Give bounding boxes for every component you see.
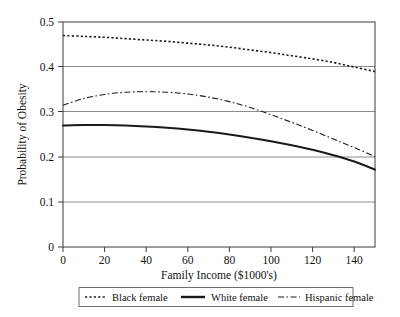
xtick-label-120: 120 [304,254,322,266]
obesity-probability-line-chart: 0 0.1 0.2 0.3 0.4 0.5 0 20 40 60 80 100 [0,0,400,317]
xtick-label-40: 40 [140,254,152,266]
legend: Black female White female Hispanic femal… [79,288,374,307]
legend-label-hispanic-female: Hispanic female [305,292,374,303]
legend-label-black-female: Black female [112,292,168,303]
ytick-label-0.5: 0.5 [40,16,55,28]
chart-figure: 0 0.1 0.2 0.3 0.4 0.5 0 20 40 60 80 100 [0,0,400,317]
legend-label-white-female: White female [211,292,268,303]
xtick-label-20: 20 [99,254,111,266]
ytick-label-0.2: 0.2 [40,151,55,163]
xtick-label-0: 0 [60,254,66,266]
x-axis-title: Family Income ($1000's) [161,269,277,282]
y-axis-title: Probability of Obesity [16,83,29,185]
ytick-label-0.4: 0.4 [40,61,55,73]
ytick-label-0.3: 0.3 [40,106,55,118]
ytick-label-0: 0 [48,241,54,253]
xtick-label-100: 100 [262,254,280,266]
xtick-label-60: 60 [182,254,194,266]
xtick-label-80: 80 [224,254,236,266]
ytick-label-0.1: 0.1 [40,196,55,208]
xtick-label-140: 140 [346,254,364,266]
